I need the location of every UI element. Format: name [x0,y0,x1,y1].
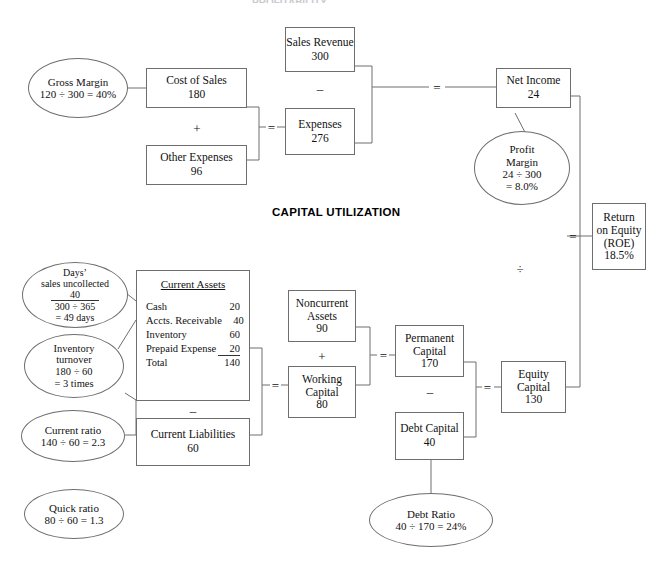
roe-line1: Return [603,211,634,224]
other-expenses-value: 96 [191,165,203,179]
wire-sales-revenue-bracket [355,66,372,87]
box-expenses[interactable]: Expenses 276 [285,108,355,155]
operator-plus-noncurrent-working: + [315,350,329,363]
inventory-turnover-line4: = 3 times [54,378,93,390]
wire-current-liabilities-right-bracket [250,385,262,435]
profit-margin-line3: 24 ÷ 300 [502,168,541,180]
gross-margin-line1: Gross Margin [48,76,109,88]
profit-margin-line4: = 8.0% [506,180,538,192]
days-sales-line5: = 49 days [56,312,95,323]
working-capital-line2: Capital [305,386,338,399]
row-label: Prepaid Expense [146,342,216,356]
operator-minus-revenue-expenses: – [313,82,327,95]
current-assets-row-prepaid-expense: Prepaid Expense 20 [146,342,240,356]
wire-working-capital-bracket [356,355,370,385]
days-sales-fraction: 40 300 ÷ 365 [51,289,100,312]
permanent-capital-line1: Permanent [405,332,454,345]
wire-permanent-capital-bracket [464,362,476,387]
roe-value: 18.5% [604,249,634,262]
box-sales-revenue[interactable]: Sales Revenue 300 [285,27,355,72]
row-value: 20 [218,300,240,314]
days-sales-line2: sales uncollected [41,278,109,289]
operator-minus-permanent-debt: – [423,385,437,398]
equity-capital-line1: Equity [518,368,549,381]
roe-line2: on Equity [596,224,641,237]
expenses-value: 276 [311,132,328,146]
current-liabilities-value: 60 [187,442,199,456]
box-other-expenses[interactable]: Other Expenses 96 [146,145,247,185]
debt-capital-value: 40 [424,436,436,450]
net-income-value: 24 [528,88,540,102]
cost-of-sales-label: Cost of Sales [166,74,227,88]
noncurrent-assets-line1: Noncurrent [296,297,348,310]
wire-cost-of-sales-bracket [247,107,259,127]
operator-equals-equity-capital: = [481,381,494,394]
operator-plus-cost-other: + [190,122,204,135]
row-label: Accts. Receivable [146,314,222,328]
operator-equals-roe: = [566,230,580,243]
operator-equals-net-income: = [430,81,444,94]
box-noncurrent-assets[interactable]: Noncurrent Assets 90 [288,290,356,342]
profit-margin-line2: Margin [506,156,538,168]
operator-minus-assets-liabilities: – [186,404,200,417]
row-label: Inventory [146,328,187,342]
box-current-assets[interactable]: Current Assets Cash 20 Accts. Receivable… [136,270,250,401]
operator-divide-roe: ÷ [513,262,527,275]
gross-margin-line2: 120 ÷ 300 = 40% [40,88,116,100]
profit-margin-line1: Profit [509,143,534,155]
box-net-income[interactable]: Net Income 24 [496,68,571,108]
noncurrent-assets-line2: Assets [307,310,337,323]
days-sales-line1: Days’ [63,267,87,278]
roe-line3: (ROE) [604,237,635,250]
debt-capital-label: Debt Capital [400,422,458,436]
box-permanent-capital[interactable]: Permanent Capital 170 [395,325,464,377]
working-capital-value: 80 [316,398,328,411]
box-working-capital[interactable]: Working Capital 80 [288,366,356,418]
section-title-capital-utilization: CAPITAL UTILIZATION [272,206,400,218]
current-assets-row-accounts-receivable: Accts. Receivable 40 [146,314,240,328]
noncurrent-assets-value: 90 [316,322,328,335]
ellipse-gross-margin[interactable]: Gross Margin 120 ÷ 300 = 40% [28,58,128,118]
row-value: 140 [218,355,240,370]
ellipse-debt-ratio[interactable]: Debt Ratio 40 ÷ 170 = 24% [369,493,493,547]
box-equity-capital[interactable]: Equity Capital 130 [501,361,566,413]
debt-ratio-line2: 40 ÷ 170 = 24% [396,520,467,532]
debt-ratio-line1: Debt Ratio [407,508,455,520]
current-assets-row-inventory: Inventory 60 [146,328,240,342]
row-value: 60 [218,328,240,342]
row-label: Cash [146,300,167,314]
days-sales-denominator: 300 ÷ 365 [51,300,100,312]
wire-current-assets-to-inventory-turnover [118,320,136,349]
inventory-turnover-line2: turnover [56,354,92,366]
current-ratio-line1: Current ratio [45,424,102,436]
ellipse-profit-margin[interactable]: Profit Margin 24 ÷ 300 = 8.0% [474,131,570,205]
current-assets-row-cash: Cash 20 [146,300,240,314]
operator-equals-permanent-capital: = [377,349,390,362]
ellipse-quick-ratio[interactable]: Quick ratio 80 ÷ 60 = 1.3 [24,489,124,539]
ellipse-current-ratio[interactable]: Current ratio 140 ÷ 60 = 2.3 [21,410,125,462]
net-income-label: Net Income [507,74,561,88]
operator-equals-working-capital: = [269,379,282,392]
current-ratio-line2: 140 ÷ 60 = 2.3 [41,436,106,448]
box-cost-of-sales[interactable]: Cost of Sales 180 [146,68,247,108]
wire-noncurrent-assets-bracket [356,327,370,355]
current-assets-row-total: Total 140 [146,355,240,370]
current-assets-heading: Current Assets [146,278,240,291]
box-debt-capital[interactable]: Debt Capital 40 [395,412,464,460]
wire-net-income-to-roe-spine [571,96,580,236]
inventory-turnover-line1: Inventory [54,343,95,355]
wire-current-ratio-to-current-assets [125,393,136,435]
box-current-liabilities[interactable]: Current Liabilities 60 [136,418,250,466]
sales-revenue-label: Sales Revenue [286,36,353,50]
ellipse-days-sales-uncollected[interactable]: Days’ sales uncollected 40 300 ÷ 365 = 4… [22,262,128,328]
operator-equals-expenses: = [265,121,278,134]
box-return-on-equity[interactable]: Return on Equity (ROE) 18.5% [592,203,646,270]
quick-ratio-line1: Quick ratio [49,502,99,514]
inventory-turnover-line3: 180 ÷ 60 [55,366,92,378]
working-capital-line1: Working [302,373,342,386]
ellipse-inventory-turnover[interactable]: Inventory turnover 180 ÷ 60 = 3 times [24,334,124,398]
row-value: 40 [222,314,244,328]
other-expenses-label: Other Expenses [160,151,233,165]
permanent-capital-line2: Capital [413,345,446,358]
quick-ratio-line2: 80 ÷ 60 = 1.3 [45,514,104,526]
